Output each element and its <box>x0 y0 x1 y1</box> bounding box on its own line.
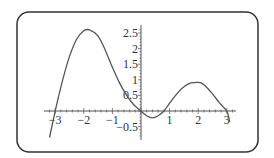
y-tick-label: −0.5 <box>116 120 138 134</box>
x-tick-label: 1 <box>167 113 173 127</box>
y-tick-label: 1.5 <box>123 57 138 71</box>
y-tick-label: 1 <box>132 73 138 87</box>
function-plot: −3−2−11232.521.510.5−0.5 <box>0 0 274 158</box>
y-tick-label: 2 <box>132 42 138 56</box>
x-tick-label: 2 <box>195 113 201 127</box>
x-tick-label: −3 <box>49 113 62 127</box>
y-tick-label: 2.5 <box>123 26 138 40</box>
x-tick-label: −2 <box>77 113 90 127</box>
axes <box>44 25 236 140</box>
